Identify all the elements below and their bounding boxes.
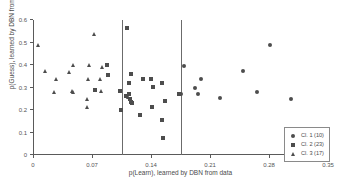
data-point-series-3: [36, 43, 40, 47]
data-point-series-1: [196, 92, 200, 96]
data-point-series-1: [289, 97, 293, 101]
data-point-series-1: [218, 96, 222, 100]
legend-item-2[interactable]: Cl. 2 (23): [289, 140, 324, 149]
data-point-series-2: [163, 99, 167, 103]
data-point-series-3: [98, 77, 102, 81]
data-point-series-3: [86, 77, 90, 81]
data-point-series-3: [71, 90, 75, 94]
data-point-series-2: [150, 105, 154, 109]
data-point-series-3: [85, 97, 89, 101]
y-tick-label: 0.1: [19, 129, 27, 137]
data-point-series-2: [119, 108, 123, 112]
data-point-series-2: [177, 92, 181, 96]
x-tick: [151, 155, 152, 158]
x-tick: [210, 155, 211, 158]
y-tick: [30, 64, 33, 65]
data-point-series-1: [182, 64, 186, 68]
y-tick: [30, 109, 33, 110]
x-axis-label: p(Learn), learned by DBN from data: [33, 168, 328, 177]
y-tick-label: 0.3: [19, 84, 27, 92]
data-point-series-2: [161, 136, 165, 140]
legend-label: Cl. 2 (23): [301, 140, 324, 149]
data-point-series-3: [54, 77, 58, 81]
data-point-series-3: [71, 63, 75, 67]
y-tick: [30, 132, 33, 133]
y-tick-label: 0.6: [19, 16, 27, 24]
data-point-series-1: [268, 43, 272, 47]
data-point-series-2: [149, 77, 153, 81]
data-point-series-3: [85, 105, 89, 109]
data-point-series-3: [87, 63, 91, 67]
data-point-series-1: [255, 90, 259, 94]
y-tick-label: 0.2: [19, 106, 27, 114]
data-point-series-1: [199, 77, 203, 81]
x-tick: [269, 155, 270, 158]
legend: Cl. 1 (10)Cl. 2 (23)Cl. 3 (17): [284, 127, 330, 162]
data-point-series-3: [100, 65, 104, 69]
data-point-series-3: [99, 89, 103, 93]
cluster-divider-2: [181, 20, 182, 155]
y-tick: [30, 19, 33, 20]
data-point-series-2: [160, 81, 164, 85]
y-tick-label: 0.4: [19, 61, 27, 69]
y-tick-label: 0: [24, 151, 27, 159]
data-point-series-2: [127, 81, 131, 85]
data-point-series-2: [106, 73, 110, 77]
data-point-series-3: [92, 32, 96, 36]
data-point-series-2: [138, 113, 142, 117]
square-marker-icon: [289, 143, 298, 147]
data-point-series-1: [241, 69, 245, 73]
data-point-series-2: [130, 101, 134, 105]
data-point-series-2: [93, 88, 97, 92]
x-tick: [92, 155, 93, 158]
y-tick: [30, 87, 33, 88]
data-point-series-1: [193, 86, 197, 90]
data-point-series-3: [126, 95, 130, 99]
triangle-marker-icon: [289, 152, 298, 156]
y-axis-line: [33, 20, 34, 155]
circle-marker-icon: [289, 134, 298, 138]
legend-item-1[interactable]: Cl. 1 (10): [289, 131, 324, 140]
legend-label: Cl. 1 (10): [301, 131, 324, 140]
data-point-series-3: [52, 90, 56, 94]
y-tick-label: 0.5: [19, 39, 27, 47]
data-point-series-2: [105, 63, 109, 67]
y-tick: [30, 154, 33, 155]
cluster-divider-1: [122, 20, 123, 155]
data-point-series-2: [141, 77, 145, 81]
data-point-series-3: [67, 70, 71, 74]
legend-label: Cl. 3 (17): [301, 149, 324, 158]
data-point-series-2: [151, 85, 155, 89]
y-tick: [30, 42, 33, 43]
data-point-series-2: [129, 72, 133, 76]
x-tick: [33, 155, 34, 158]
legend-item-3[interactable]: Cl. 3 (17): [289, 149, 324, 158]
data-point-series-2: [125, 26, 129, 30]
y-axis-label: p(Guess), learned by DBN from data: [7, 0, 16, 99]
data-point-series-2: [160, 118, 164, 122]
data-point-series-2: [118, 89, 122, 93]
data-point-series-3: [43, 69, 47, 73]
scatter-plot-figure: 00.070.140.210.280.35 00.10.20.30.40.50.…: [0, 0, 342, 188]
